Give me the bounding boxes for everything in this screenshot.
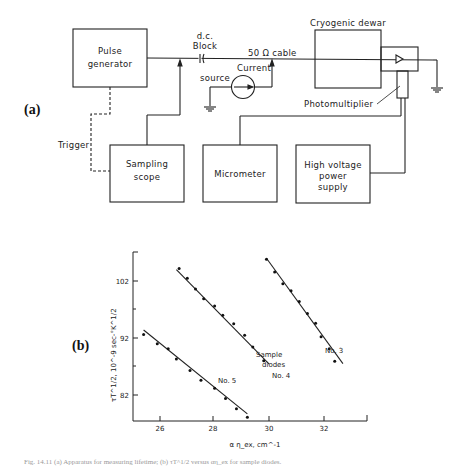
current-arrow-icon: [248, 85, 253, 89]
x-tick-26: 26: [156, 425, 165, 433]
label-no3: No. 3: [325, 347, 343, 355]
y-tick-102: 102: [116, 278, 129, 286]
dc-block-label-1: d.c.: [197, 31, 214, 41]
data-point: [213, 305, 216, 308]
data-point: [224, 397, 227, 400]
label-sample-diodes-2: diodes: [262, 361, 285, 369]
data-point: [281, 282, 284, 285]
pulse-generator-label-1: Pulse: [98, 46, 122, 56]
series-no-4: [176, 267, 269, 364]
label-no4: No. 4: [272, 372, 291, 380]
cable-label: 50 Ω cable: [248, 48, 297, 58]
data-point: [186, 277, 189, 280]
data-point: [243, 334, 246, 337]
y-tick-82: 82: [120, 392, 129, 400]
trigger-label: Trigger: [57, 140, 90, 150]
hv-supply-label-1: High voltage: [304, 160, 362, 170]
photomultiplier-tube: [397, 71, 408, 98]
label-sample-diodes-1: Sample: [256, 351, 282, 359]
sampling-scope-label-1: Sampling: [126, 159, 168, 169]
x-axis-label: α η_ex, cm^-1: [229, 441, 280, 449]
diode-icon: [396, 55, 403, 63]
data-point: [333, 360, 336, 363]
y-tick-92: 92: [120, 335, 129, 343]
hv-supply-label-2: power: [319, 171, 347, 181]
signal-line: [147, 58, 433, 60]
current-source-label-1: Current: [237, 63, 271, 73]
data-point: [290, 289, 293, 292]
sampling-scope-label-2: scope: [134, 172, 160, 182]
data-point: [298, 300, 301, 303]
panel-a-label: (a): [24, 102, 41, 118]
pulse-generator-label-2: generator: [88, 59, 133, 69]
data-point: [213, 387, 216, 390]
photomultiplier-label: Photomultiplier: [304, 99, 374, 109]
panel-b-label: (b): [72, 338, 89, 354]
arrow-up-icon: [178, 60, 182, 66]
x-tick-30: 30: [265, 425, 274, 433]
x-tick-labels: 26 28 30 32: [156, 425, 329, 433]
label-no5: No. 5: [218, 377, 236, 385]
figure-canvas: (a) Pulse generator Sampling scope Micro…: [0, 0, 463, 467]
trigger-line: [91, 87, 110, 171]
data-point: [189, 369, 192, 372]
dc-block-label-2: Block: [193, 41, 218, 51]
data-point: [320, 335, 323, 338]
data-point: [178, 267, 181, 270]
data-point: [167, 347, 170, 350]
data-point: [156, 342, 159, 345]
data-point: [265, 258, 268, 261]
data-point: [314, 322, 317, 325]
chart-axes: [133, 252, 367, 421]
data-point: [202, 297, 205, 300]
data-point: [273, 270, 276, 273]
data-point: [251, 346, 254, 349]
data-point: [246, 416, 249, 419]
series-no-5: [142, 330, 249, 419]
cryogenic-dewar-label: Cryogenic dewar: [310, 18, 386, 28]
pulse-generator-box: [73, 29, 147, 87]
fit-line: [144, 330, 248, 414]
data-point: [221, 314, 224, 317]
data-point: [235, 407, 238, 410]
data-point: [306, 312, 309, 315]
data-point: [199, 379, 202, 382]
chart-series: [142, 258, 343, 419]
data-point: [232, 322, 235, 325]
data-point: [194, 287, 197, 290]
x-tick-28: 28: [209, 425, 218, 433]
micrometer-label: Micrometer: [214, 169, 266, 179]
data-point: [142, 333, 145, 336]
data-point: [175, 358, 178, 361]
y-axis-label: τT^1/2, 10^-9 sec-°K^1/2: [110, 308, 118, 402]
figure-caption: Fig. 14.11 (a) Apparatus for measuring l…: [24, 458, 282, 466]
hv-supply-label-3: supply: [318, 182, 348, 192]
current-source-label-2: source: [200, 73, 230, 83]
x-tick-32: 32: [320, 425, 329, 433]
